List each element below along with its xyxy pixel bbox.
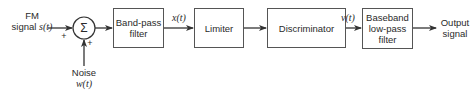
bandpass-line2: filter xyxy=(116,28,161,39)
input-label-line1: FM xyxy=(4,10,60,21)
baseband-line1: Baseband xyxy=(366,12,409,23)
baseband-line2: low-pass xyxy=(366,23,409,34)
limiter-label: Limiter xyxy=(205,23,234,34)
output-label: Output signal xyxy=(436,17,474,39)
input-label: FM signal s(t) xyxy=(4,10,60,32)
discriminator-block: Discriminator xyxy=(267,8,346,48)
input-label-line2: signal s(t) xyxy=(4,21,60,32)
output-label-line2: signal xyxy=(436,28,474,39)
summer-sign-left: + xyxy=(60,31,68,42)
limiter-block: Limiter xyxy=(194,8,244,48)
output-label-line1: Output xyxy=(436,17,474,28)
bandpass-line1: Band-pass xyxy=(116,17,161,28)
discriminator-label: Discriminator xyxy=(279,23,334,34)
noise-label-line1: Noise xyxy=(64,67,104,78)
baseband-lowpass-filter-block: Baseband low-pass filter xyxy=(362,8,413,49)
baseband-line3: filter xyxy=(366,34,409,45)
signal-x-label: x(t) xyxy=(170,12,188,23)
noise-label: Noise w(t) xyxy=(64,67,104,89)
input-label-text: signal xyxy=(12,21,39,32)
summer-sign-bottom: + xyxy=(86,38,94,49)
input-signal-var: s(t) xyxy=(39,21,52,32)
noise-var: w(t) xyxy=(64,78,104,89)
summer-symbol: Σ xyxy=(77,21,91,35)
bandpass-filter-block: Band-pass filter xyxy=(113,8,164,48)
signal-v-label: v(t) xyxy=(339,12,357,23)
